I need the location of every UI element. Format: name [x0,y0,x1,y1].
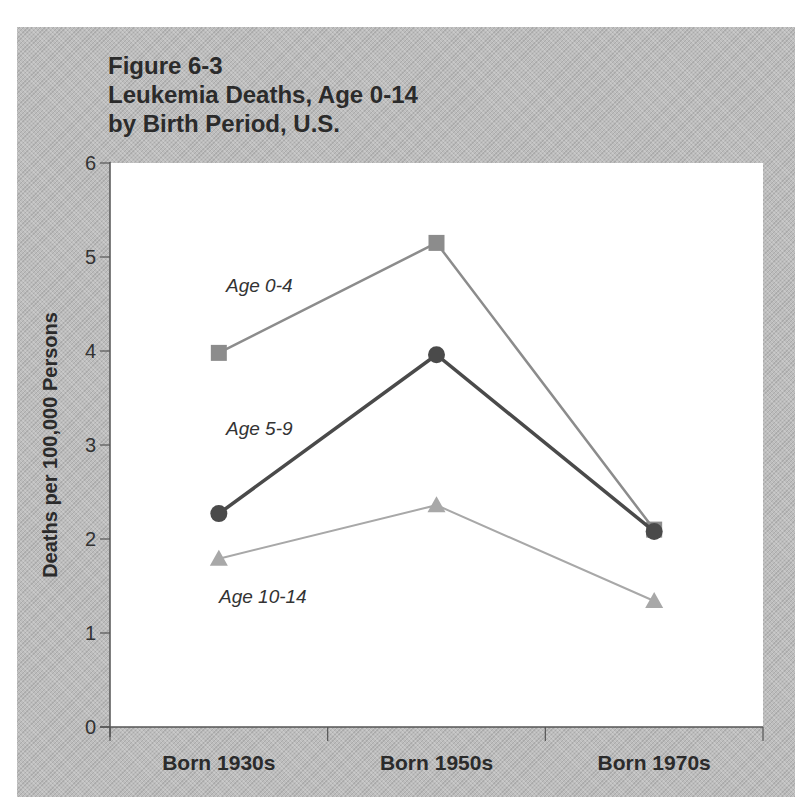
series-label: Age 10-14 [218,586,307,607]
square-marker-icon [211,345,227,361]
y-tick-label: 0 [85,716,96,738]
series-label: Age 5-9 [225,418,293,439]
y-tick-label: 6 [85,152,96,174]
x-tick-label: Born 1970s [598,751,711,774]
circle-marker-icon [210,505,227,522]
line-chart: 0123456Born 1930sBorn 1950sBorn 1970sAge… [0,0,800,811]
circle-marker-icon [428,346,445,363]
y-tick-label: 3 [85,434,96,456]
circle-marker-icon [646,523,663,540]
y-tick-label: 4 [85,340,96,362]
y-tick-label: 5 [85,246,96,268]
series-label: Age 0-4 [225,275,293,296]
x-tick-label: Born 1950s [380,751,493,774]
y-tick-label: 2 [85,528,96,550]
y-tick-label: 1 [85,622,96,644]
x-tick-label: Born 1930s [162,751,275,774]
square-marker-icon [429,235,445,251]
